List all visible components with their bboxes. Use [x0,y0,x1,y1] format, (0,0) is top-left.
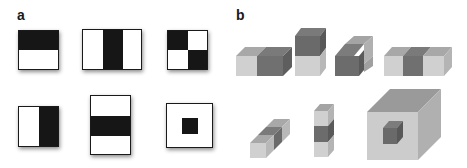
cube-two-top-bottom [295,28,326,76]
cube-three-depth [250,119,290,158]
cube-three-horizontal [384,47,452,76]
haar-3d-features [0,0,467,168]
cube-two-left-right [236,47,292,76]
cube-two-front-back [335,36,373,76]
cube-center-surround [367,89,441,160]
cube-three-vertical [314,104,334,157]
